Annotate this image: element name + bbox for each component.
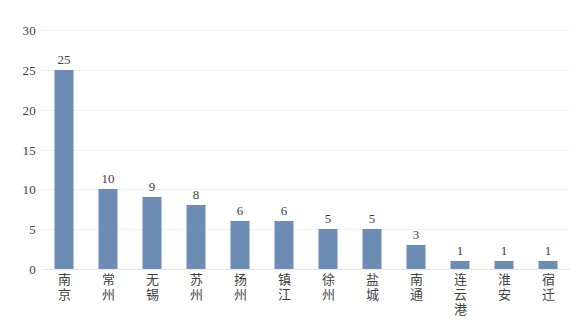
bar-chart: 30 25 20 15 10 5 0 25109866553111 南京常州无锡… [0, 0, 588, 335]
x-axis-label: 连云港 [438, 272, 482, 317]
y-tick-label-5: 5 [0, 223, 36, 236]
x-axis-label-char: 云 [454, 287, 467, 302]
x-axis-label-char: 盐 [366, 272, 379, 287]
bar-group: 1 [526, 30, 570, 269]
bar-group: 6 [218, 30, 262, 269]
x-axis-label-char: 苏 [190, 272, 203, 287]
bars-layer: 25109866553111 [42, 30, 570, 269]
x-axis-label: 镇江 [262, 272, 306, 302]
x-axis-label: 盐城 [350, 272, 394, 302]
x-axis: 南京常州无锡苏州扬州镇江徐州盐城南通连云港淮安宿迁 [42, 272, 570, 334]
bar-value-label: 1 [501, 244, 508, 257]
x-axis-label-char: 港 [454, 302, 467, 317]
x-axis-label: 苏州 [174, 272, 218, 302]
bar-value-label: 3 [413, 228, 420, 241]
y-tick-label-30: 30 [0, 24, 36, 37]
bar-value-label: 8 [193, 188, 200, 201]
y-tick-label-20: 20 [0, 103, 36, 116]
x-axis-label-char: 无 [146, 272, 159, 287]
x-axis-label-char: 州 [190, 287, 203, 302]
y-tick-label-25: 25 [0, 63, 36, 76]
x-axis-label-char: 常 [102, 272, 115, 287]
bar-group: 10 [86, 30, 130, 269]
y-axis: 30 25 20 15 10 5 0 [0, 30, 36, 269]
x-axis-label-char: 州 [322, 287, 335, 302]
bar[interactable] [275, 221, 294, 269]
bar-group: 8 [174, 30, 218, 269]
x-axis-label-char: 镇 [278, 272, 291, 287]
bar-group: 9 [130, 30, 174, 269]
x-axis-label-char: 徐 [322, 272, 335, 287]
bar-value-label: 6 [281, 204, 288, 217]
bar-value-label: 1 [545, 244, 552, 257]
bar[interactable] [231, 221, 250, 269]
bar-value-label: 1 [457, 244, 464, 257]
x-axis-label: 南京 [42, 272, 86, 302]
bar-value-label: 9 [149, 180, 156, 193]
x-axis-label-char: 安 [498, 287, 511, 302]
x-axis-label: 徐州 [306, 272, 350, 302]
bar-group: 5 [350, 30, 394, 269]
x-axis-label-char: 锡 [146, 287, 159, 302]
bar-group: 3 [394, 30, 438, 269]
bar[interactable] [451, 261, 470, 269]
bar-group: 1 [482, 30, 526, 269]
bar-group: 5 [306, 30, 350, 269]
bar-value-label: 6 [237, 204, 244, 217]
axis-baseline [42, 269, 570, 270]
bar-group: 6 [262, 30, 306, 269]
x-axis-label-char: 迁 [542, 287, 555, 302]
bar-group: 1 [438, 30, 482, 269]
bar[interactable] [495, 261, 514, 269]
bar-group: 25 [42, 30, 86, 269]
y-tick-label-10: 10 [0, 183, 36, 196]
x-axis-label-char: 宿 [542, 272, 555, 287]
bar[interactable] [363, 229, 382, 269]
x-axis-label-char: 南 [410, 272, 423, 287]
bar[interactable] [539, 261, 558, 269]
x-axis-label: 扬州 [218, 272, 262, 302]
y-tick-label-15: 15 [0, 143, 36, 156]
x-axis-label-char: 通 [410, 287, 423, 302]
x-axis-label: 宿迁 [526, 272, 570, 302]
bar[interactable] [319, 229, 338, 269]
y-tick-label-0: 0 [0, 263, 36, 276]
x-axis-label-char: 连 [454, 272, 467, 287]
x-axis-label-char: 江 [278, 287, 291, 302]
x-axis-label-char: 淮 [498, 272, 511, 287]
bar[interactable] [143, 197, 162, 269]
x-axis-label-char: 扬 [234, 272, 247, 287]
bar[interactable] [99, 189, 118, 269]
x-axis-label-char: 南 [58, 272, 71, 287]
bar[interactable] [55, 70, 74, 269]
x-axis-label-char: 州 [234, 287, 247, 302]
x-axis-label-char: 城 [366, 287, 379, 302]
bar[interactable] [407, 245, 426, 269]
x-axis-label-char: 京 [58, 287, 71, 302]
x-axis-label: 无锡 [130, 272, 174, 302]
x-axis-label: 南通 [394, 272, 438, 302]
bar-value-label: 5 [325, 212, 332, 225]
bar-value-label: 5 [369, 212, 376, 225]
bar[interactable] [187, 205, 206, 269]
bar-value-label: 25 [58, 53, 71, 66]
x-axis-label-char: 州 [102, 287, 115, 302]
x-axis-label: 常州 [86, 272, 130, 302]
bar-value-label: 10 [102, 172, 115, 185]
x-axis-label: 淮安 [482, 272, 526, 302]
